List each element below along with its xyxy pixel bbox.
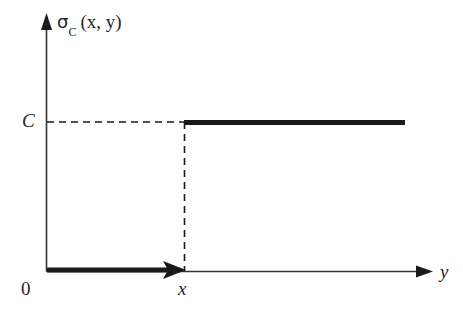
step-function-figure: σC(x, y) C 0 x y	[0, 0, 463, 314]
sigma-subscript: C	[68, 25, 76, 39]
function-label: σC(x, y)	[57, 12, 122, 35]
horizontal-axis-label-y: y	[440, 262, 448, 281]
vertical-axis-arrow-icon	[41, 13, 52, 30]
x-axis-tick-label-x: x	[178, 279, 186, 298]
sigma-glyph: σ	[57, 11, 68, 32]
horizontal-axis-arrow-icon	[416, 266, 433, 278]
function-arguments: (x, y)	[80, 11, 121, 32]
origin-label: 0	[21, 279, 31, 298]
plot-canvas	[0, 0, 463, 314]
y-axis-tick-label-c: C	[22, 111, 35, 130]
